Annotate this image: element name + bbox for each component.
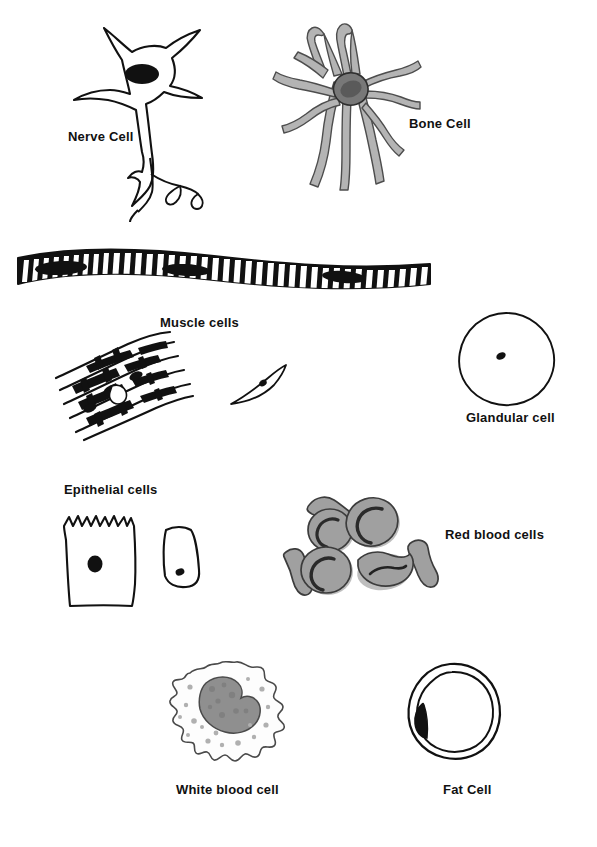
fat-cell-figure	[400, 660, 510, 770]
muscle-cells-label: Muscle cells	[160, 316, 239, 329]
cell-types-diagram: Nerve Cell	[0, 0, 597, 847]
white-blood-cell-label: White blood cell	[176, 783, 279, 796]
muscle-fiber-figure	[14, 244, 434, 306]
red-blood-cells-figure	[282, 490, 452, 610]
rbc-disc	[308, 509, 352, 551]
nerve-cell-nucleus	[125, 64, 159, 84]
red-blood-cells-label: Red blood cells	[445, 528, 544, 541]
rbc-disc	[301, 547, 351, 593]
cardiac-muscle-figure	[50, 330, 195, 440]
bone-cell-label: Bone Cell	[409, 117, 471, 130]
epithelial-cell-small	[164, 527, 200, 587]
white-blood-cell-figure	[150, 655, 300, 770]
epithelial-cells-figure	[58, 512, 218, 612]
fat-cell-lipid-droplet	[417, 672, 493, 752]
glandular-cell-figure	[452, 310, 562, 410]
bone-cell-figure	[272, 24, 422, 194]
nerve-cell-figure	[60, 22, 260, 212]
epithelial-cells-label: Epithelial cells	[64, 483, 158, 496]
epithelial-cell-large-nucleus	[88, 556, 103, 573]
smooth-muscle-cell-figure	[228, 360, 290, 410]
cardiac-nucleus-highlight	[109, 385, 126, 404]
glandular-cell-label: Glandular cell	[466, 411, 555, 424]
nerve-cell-label: Nerve Cell	[68, 130, 134, 143]
fat-cell-label: Fat Cell	[443, 783, 492, 796]
